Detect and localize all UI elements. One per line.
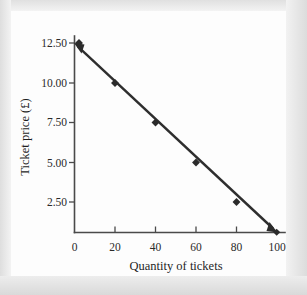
x-axis-title: Quantity of tickets xyxy=(129,259,222,273)
y-tick-label: 5.00 xyxy=(47,157,67,169)
x-tick-label: 60 xyxy=(190,241,202,253)
data-point-marker xyxy=(233,198,241,206)
y-tick-label: 12.50 xyxy=(41,37,67,49)
x-tick-label: 20 xyxy=(109,241,121,253)
x-tick-label: 100 xyxy=(268,241,286,253)
x-tick-label: 80 xyxy=(231,241,243,253)
line-chart: Ticket price (£) 12.50 10.00 7.50 5.00 2… xyxy=(0,0,307,295)
x-tick-label: 0 xyxy=(72,241,78,253)
y-tick-label: 7.50 xyxy=(47,116,67,128)
x-tick-label: 40 xyxy=(150,241,162,253)
y-axis-title: Ticket price (£) xyxy=(18,98,32,175)
data-point-marker xyxy=(152,119,160,127)
y-tick-label: 2.50 xyxy=(47,196,67,208)
scanned-page: Ticket price (£) 12.50 10.00 7.50 5.00 2… xyxy=(0,0,307,295)
demand-line xyxy=(78,47,273,229)
y-tick-label: 10.00 xyxy=(41,77,67,89)
